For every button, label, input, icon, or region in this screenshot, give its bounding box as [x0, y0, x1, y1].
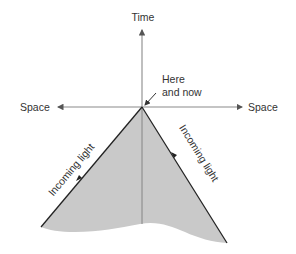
- space-label-left: Space: [20, 101, 50, 113]
- and-now-label: and now: [162, 86, 202, 98]
- space-label-right: Space: [248, 101, 278, 113]
- here-label: Here: [162, 73, 185, 85]
- time-label: Time: [132, 11, 155, 23]
- here-now-pointer: [145, 93, 156, 105]
- light-cone-diagram: Time Space Space Here and now Incoming l…: [0, 0, 296, 254]
